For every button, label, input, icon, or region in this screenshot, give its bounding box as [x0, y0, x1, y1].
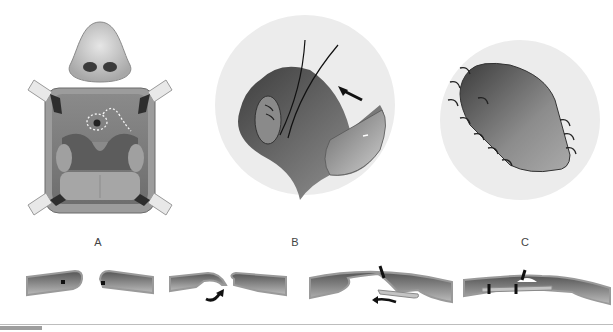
- bottom-tab-marker: [0, 326, 42, 330]
- panel-label-b: B: [291, 236, 298, 248]
- cross-section-1: [25, 265, 155, 310]
- panel-b-flap-rotation: [210, 10, 400, 210]
- cross-section-2: [168, 265, 288, 310]
- cross-section-4: [462, 262, 612, 312]
- panel-label-c: C: [521, 236, 529, 248]
- panel-label-a: A: [94, 236, 101, 248]
- oral-cavity-illustration: [20, 10, 180, 225]
- panel-a-oral-cavity: [20, 10, 180, 225]
- cross-section-3: [308, 262, 453, 312]
- sutured-flap-illustration: [430, 30, 610, 200]
- panel-c-sutured-flap: [430, 30, 610, 200]
- flap-rotation-illustration: [210, 10, 400, 210]
- bottom-divider: [0, 324, 613, 325]
